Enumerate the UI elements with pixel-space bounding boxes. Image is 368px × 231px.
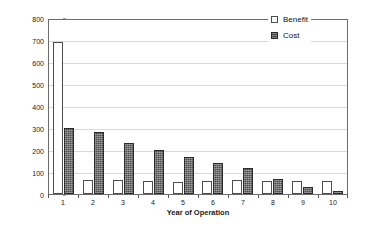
bar-group	[168, 20, 198, 194]
bar-cost-year-1	[64, 128, 74, 194]
legend-entry-cost: Cost	[271, 30, 308, 40]
bar-cost-year-7	[243, 168, 253, 194]
bar-benefit-year-5	[173, 182, 183, 194]
bar-group	[79, 20, 109, 194]
legend-entry-benefit: Benefit	[271, 14, 308, 24]
bar-benefit-year-3	[113, 180, 123, 194]
x-tick-label: 6	[198, 195, 228, 209]
x-tick-label: 4	[138, 195, 168, 209]
y-tick-label: 400	[18, 104, 44, 111]
bar-cost-year-10	[333, 191, 343, 194]
y-tick-label: 0	[18, 192, 44, 199]
bar-benefit-year-8	[262, 181, 272, 194]
legend-label: Benefit	[283, 15, 308, 24]
bar-benefit-year-10	[322, 181, 332, 194]
x-tick-label: 9	[288, 195, 318, 209]
bar-cost-year-9	[303, 187, 313, 194]
bar-benefit-year-1	[53, 42, 63, 194]
x-axis-title: Year of Operation	[48, 208, 348, 217]
bar-group	[138, 20, 168, 194]
bar-group	[198, 20, 228, 194]
y-tick-label: 600	[18, 60, 44, 67]
y-axis-tick-labels: 800 700 600 500 400 300 200 100 0	[18, 19, 44, 195]
bar-cost-year-3	[124, 143, 134, 194]
x-tick-label: 3	[108, 195, 138, 209]
bar-group	[317, 20, 347, 194]
x-tick-label: 1	[48, 195, 78, 209]
bar-group	[49, 20, 79, 194]
plot-area	[48, 19, 348, 195]
hollow-square-icon	[271, 16, 278, 23]
bar-groups	[49, 20, 347, 194]
bar-benefit-year-7	[232, 180, 242, 194]
y-tick-label: 500	[18, 82, 44, 89]
x-axis-tick-labels: 12345678910	[48, 195, 348, 209]
bar-benefit-year-4	[143, 181, 153, 194]
legend-label: Cost	[283, 31, 299, 40]
bar-cost-year-2	[94, 132, 104, 194]
bar-cost-year-8	[273, 179, 283, 194]
x-tick-label: 5	[168, 195, 198, 209]
bar-benefit-year-9	[292, 181, 302, 194]
filled-square-icon	[271, 32, 278, 39]
x-tick-label: 10	[318, 195, 348, 209]
y-tick-label: 300	[18, 126, 44, 133]
bar-group	[109, 20, 139, 194]
bar-group	[258, 20, 288, 194]
bar-cost-year-6	[213, 163, 223, 194]
y-tick-label: 700	[18, 38, 44, 45]
chart-legend: Benefit Cost	[268, 12, 311, 42]
bar-benefit-year-6	[202, 181, 212, 194]
bar-group	[287, 20, 317, 194]
bar-group	[228, 20, 258, 194]
bar-chart: $/kW Present Worth 800 700 600 500 400 3…	[0, 0, 368, 231]
y-tick-label: 800	[18, 16, 44, 23]
x-tick-label: 2	[78, 195, 108, 209]
y-tick-label: 200	[18, 148, 44, 155]
bar-cost-year-5	[184, 157, 194, 194]
bar-cost-year-4	[154, 150, 164, 194]
x-tick-label: 7	[228, 195, 258, 209]
y-tick-label: 100	[18, 170, 44, 177]
bar-benefit-year-2	[83, 180, 93, 194]
x-tick-label: 8	[258, 195, 288, 209]
